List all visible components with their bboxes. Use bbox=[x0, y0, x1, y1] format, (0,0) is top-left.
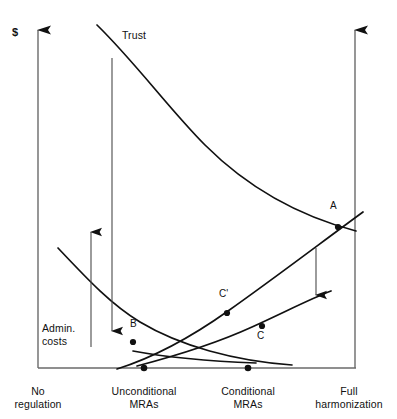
x-axis-label-unconditional-mras: Unconditional MRAs bbox=[112, 385, 177, 410]
point-marker-B bbox=[130, 339, 136, 345]
admin-costs-line2: costs bbox=[42, 335, 67, 347]
point-label-C: C bbox=[257, 330, 264, 343]
unconditional-mras-line2: MRAs bbox=[130, 398, 159, 410]
full-harmonization-line1: Full bbox=[340, 385, 357, 397]
diagram-canvas bbox=[0, 0, 397, 419]
x-axis-label-conditional-mras: Conditional MRAs bbox=[221, 385, 275, 410]
curve-admin-costs bbox=[58, 248, 292, 365]
no-regulation-line1: No bbox=[31, 385, 45, 397]
curve-rising-2 bbox=[137, 291, 331, 366]
curve-label-admin-costs: Admin. costs bbox=[42, 322, 75, 347]
y-axis-label: $ bbox=[12, 26, 18, 39]
conditional-mras-line1: Conditional bbox=[221, 385, 275, 397]
point-marker-C bbox=[259, 323, 265, 329]
axes-group bbox=[38, 30, 356, 368]
point-label-A: A bbox=[330, 200, 337, 213]
x-axis-label-full-harmonization: Full harmonization bbox=[315, 385, 382, 410]
equilibrium-point-markers bbox=[130, 224, 341, 345]
curves-group bbox=[58, 25, 363, 369]
curve-label-trust: Trust bbox=[122, 29, 146, 42]
curve-trust bbox=[97, 25, 356, 231]
tick-dot-conditional-mras bbox=[245, 365, 252, 372]
point-label-C-prime: C' bbox=[219, 288, 228, 301]
no-regulation-line2: regulation bbox=[14, 398, 61, 410]
curve-rising-1 bbox=[117, 212, 363, 369]
economics-diagram: $ Trust Admin. costs A B C' C No regulat… bbox=[0, 0, 397, 419]
full-harmonization-line2: harmonization bbox=[315, 398, 382, 410]
point-marker-A bbox=[335, 224, 341, 230]
unconditional-mras-line1: Unconditional bbox=[112, 385, 177, 397]
tick-dot-unconditional-mras bbox=[141, 365, 148, 372]
conditional-mras-line2: MRAs bbox=[234, 398, 263, 410]
x-axis-label-no-regulation: No regulation bbox=[14, 385, 61, 410]
admin-costs-line1: Admin. bbox=[42, 322, 75, 334]
point-label-B: B bbox=[130, 318, 137, 331]
point-marker-Cprime bbox=[224, 310, 230, 316]
